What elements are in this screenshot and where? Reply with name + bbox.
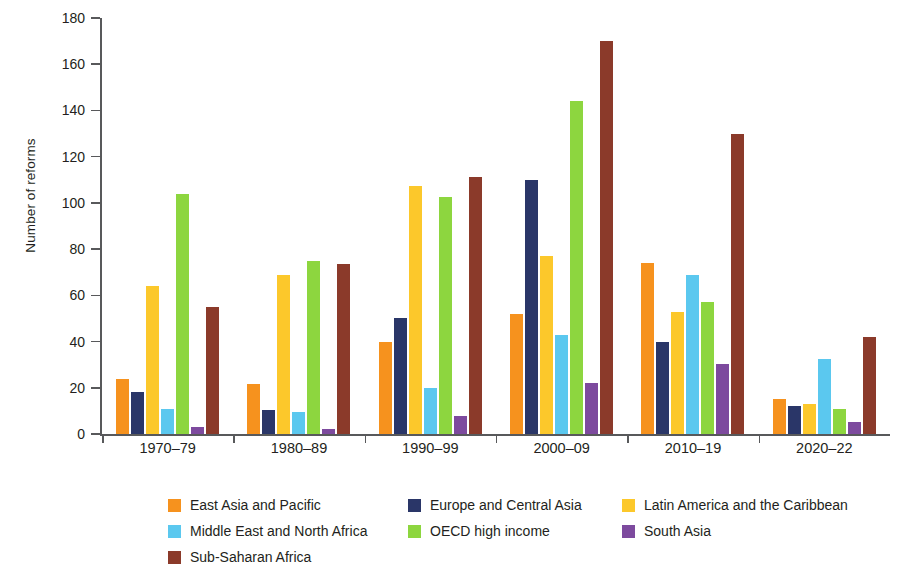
legend-label: Europe and Central Asia	[430, 498, 582, 512]
bar	[525, 180, 538, 434]
y-tick-label: 140	[62, 102, 85, 118]
legend-item[interactable]: OECD high income	[408, 524, 622, 538]
bar	[439, 197, 452, 434]
legend-swatch	[168, 499, 181, 512]
legend-item[interactable]: Middle East and North Africa	[168, 524, 408, 538]
bar	[322, 429, 335, 434]
bar	[307, 261, 320, 434]
bar-group	[496, 18, 627, 434]
y-axis-title: Number of reforms	[23, 106, 38, 286]
legend-swatch	[408, 499, 421, 512]
bar	[686, 275, 699, 434]
bar	[641, 263, 654, 434]
bar	[863, 337, 876, 434]
bar	[833, 409, 846, 434]
bar-group	[627, 18, 758, 434]
y-tick-120: 120	[91, 156, 100, 158]
legend-item[interactable]: South Asia	[622, 524, 882, 538]
y-tick-label: 100	[62, 195, 85, 211]
legend-item[interactable]: Sub-Saharan Africa	[168, 550, 408, 564]
bar	[277, 275, 290, 434]
bar	[146, 286, 159, 434]
y-tick-label: 20	[69, 380, 85, 396]
bar	[585, 383, 598, 434]
x-axis-label: 1980–89	[234, 440, 365, 456]
y-tick-140: 140	[91, 110, 100, 112]
bars	[496, 18, 627, 434]
y-tick-160: 160	[91, 63, 100, 65]
legend-row: Middle East and North AfricaOECD high in…	[168, 524, 888, 545]
bar	[848, 422, 861, 434]
bar	[510, 314, 523, 434]
bar	[337, 264, 350, 434]
bar	[731, 134, 744, 434]
plot-area: 020406080100120140160180	[100, 18, 890, 436]
bars	[233, 18, 364, 434]
bar	[555, 335, 568, 434]
bar	[409, 186, 422, 434]
bars	[759, 18, 890, 434]
bar	[424, 388, 437, 434]
legend-label: Middle East and North Africa	[190, 524, 367, 538]
legend-swatch	[168, 551, 181, 564]
y-tick-label: 160	[62, 56, 85, 72]
bar-group	[365, 18, 496, 434]
x-axis-label: 1990–99	[365, 440, 496, 456]
y-tick-60: 60	[91, 295, 100, 297]
x-axis-label: 2010–19	[628, 440, 759, 456]
y-tick-label: 0	[77, 426, 85, 442]
y-tick-180: 180	[91, 17, 100, 19]
bar	[788, 406, 801, 434]
legend-swatch	[622, 499, 635, 512]
bar	[131, 392, 144, 434]
bar	[469, 177, 482, 434]
y-tick-40: 40	[91, 341, 100, 343]
bar	[803, 404, 816, 434]
x-axis-label: 2020–22	[759, 440, 890, 456]
x-axis-label: 2000–09	[496, 440, 627, 456]
bar-group	[102, 18, 233, 434]
y-tick-20: 20	[91, 387, 100, 389]
legend-label: Sub-Saharan Africa	[190, 550, 311, 564]
bar	[116, 379, 129, 434]
bar	[540, 256, 553, 434]
y-tick-label: 120	[62, 149, 85, 165]
legend-row: East Asia and PacificEurope and Central …	[168, 498, 888, 519]
bar	[671, 312, 684, 434]
bar	[161, 409, 174, 434]
y-tick-label: 80	[69, 241, 85, 257]
legend-swatch	[408, 525, 421, 538]
y-tick-100: 100	[91, 202, 100, 204]
bar	[379, 342, 392, 434]
bar	[206, 307, 219, 434]
bar	[570, 101, 583, 434]
legend-label: OECD high income	[430, 524, 550, 538]
bar-group	[233, 18, 364, 434]
y-tick-label: 40	[69, 334, 85, 350]
bar-chart: Number of reforms 0204060801001201401601…	[0, 0, 910, 569]
legend-item[interactable]: East Asia and Pacific	[168, 498, 408, 512]
legend-label: Latin America and the Caribbean	[644, 498, 848, 512]
bar	[292, 412, 305, 434]
bars	[627, 18, 758, 434]
bar	[454, 416, 467, 434]
bar-group	[759, 18, 890, 434]
legend-item[interactable]: Europe and Central Asia	[408, 498, 622, 512]
y-tick-0: 0	[91, 433, 100, 435]
legend-item[interactable]: Latin America and the Caribbean	[622, 498, 882, 512]
x-axis-label: 1970–79	[102, 440, 233, 456]
legend-swatch	[622, 525, 635, 538]
legend-label: East Asia and Pacific	[190, 498, 321, 512]
bar	[262, 410, 275, 434]
y-tick-label: 60	[69, 287, 85, 303]
bar	[656, 342, 669, 434]
bar	[716, 364, 729, 434]
bar	[600, 41, 613, 434]
bar	[191, 427, 204, 434]
y-tick-80: 80	[91, 248, 100, 250]
legend-label: South Asia	[644, 524, 711, 538]
bar	[701, 302, 714, 434]
legend-row: Sub-Saharan Africa	[168, 550, 888, 569]
y-tick-label: 180	[62, 10, 85, 26]
bars	[365, 18, 496, 434]
